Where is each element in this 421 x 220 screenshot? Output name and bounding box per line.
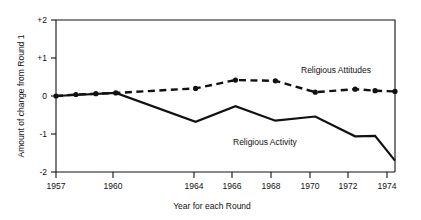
chart-container: +2 +1 0 -1 -2 1957 1960 1964 1966 1968 1… — [0, 0, 421, 220]
data-point-marker — [313, 90, 318, 95]
series-line-activity — [56, 93, 395, 161]
series-religious-attitudes — [53, 77, 397, 98]
plot-top-right-border — [56, 20, 395, 172]
data-point-marker — [392, 89, 397, 94]
x-tick-label-1957: 1957 — [47, 181, 66, 191]
y-tick-label-neg2: -2 — [39, 167, 47, 177]
x-tick-label-1968: 1968 — [262, 181, 281, 191]
x-tick-label-1960: 1960 — [104, 181, 123, 191]
data-point-marker — [372, 88, 377, 93]
x-axis-title: Year for each Round — [173, 201, 251, 211]
series-line-attitudes — [56, 80, 395, 96]
series-markers-attitudes — [53, 77, 397, 98]
y-tick-label-1: +1 — [37, 53, 47, 63]
x-tick-marks — [56, 172, 387, 178]
x-tick-label-1964: 1964 — [185, 181, 204, 191]
x-tick-label-1970: 1970 — [301, 181, 320, 191]
data-point-marker — [193, 86, 198, 91]
series-annotation-attitudes: Religious Attitudes — [301, 65, 371, 75]
x-tick-label-1966: 1966 — [223, 181, 242, 191]
data-point-marker — [113, 90, 118, 95]
y-tick-label-0: 0 — [42, 91, 47, 101]
data-point-marker — [73, 92, 78, 97]
data-point-marker — [233, 77, 238, 82]
series-annotation-activity: Religious Activity — [233, 137, 298, 147]
y-tick-label-neg1: -1 — [39, 129, 47, 139]
x-tick-label-1972: 1972 — [339, 181, 358, 191]
data-point-marker — [273, 78, 278, 83]
y-axis-title: Amount of change from Round 1 — [16, 34, 26, 157]
line-chart: +2 +1 0 -1 -2 1957 1960 1964 1966 1968 1… — [0, 0, 421, 220]
series-religious-activity — [56, 93, 395, 161]
x-tick-label-1974: 1974 — [378, 181, 397, 191]
data-point-marker — [353, 87, 358, 92]
y-tick-label-2: +2 — [37, 15, 47, 25]
data-point-marker — [53, 93, 58, 98]
data-point-marker — [93, 91, 98, 96]
